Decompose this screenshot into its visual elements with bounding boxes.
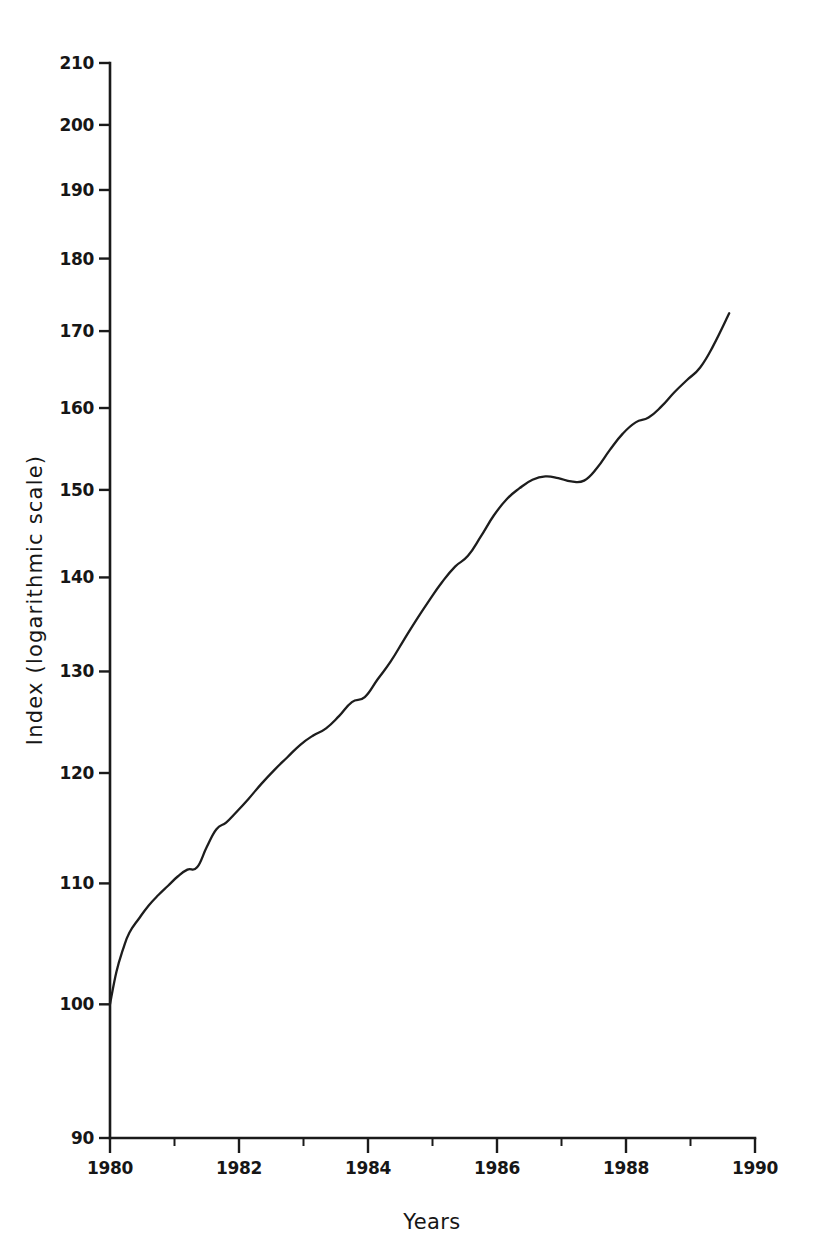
- y-tick-label: 130: [59, 661, 94, 681]
- x-tick-label: 1982: [216, 1158, 262, 1178]
- y-tick-label: 110: [59, 873, 94, 893]
- axis-lines: [110, 63, 755, 1138]
- data-line-index: [110, 313, 729, 1004]
- y-axis-title: Index (logarithmic scale): [23, 455, 47, 745]
- y-tick-label: 140: [59, 567, 94, 587]
- y-tick-label: 120: [59, 763, 94, 783]
- x-tick-label: 1990: [732, 1158, 779, 1178]
- x-tick-label: 1984: [345, 1158, 392, 1178]
- y-tick-label: 150: [59, 480, 94, 500]
- x-tick-label: 1980: [87, 1158, 134, 1178]
- y-tick-label: 210: [59, 53, 94, 73]
- y-tick-label: 170: [59, 321, 94, 341]
- y-tick-label: 160: [59, 398, 94, 418]
- y-tick-label: 190: [59, 180, 94, 200]
- x-tick-label: 1986: [474, 1158, 520, 1178]
- y-axis-ticks: 21020019018017016015014013012011010090: [59, 53, 110, 1148]
- x-axis-ticks: 198019821984198619881990: [87, 1138, 779, 1178]
- x-axis-title: Years: [402, 1210, 460, 1234]
- y-tick-label: 100: [59, 994, 94, 1014]
- y-tick-label: 180: [59, 249, 94, 269]
- line-chart: 21020019018017016015014013012011010090 1…: [0, 0, 813, 1258]
- y-tick-label: 90: [71, 1128, 95, 1148]
- x-tick-label: 1988: [603, 1158, 649, 1178]
- series-group: [110, 313, 729, 1004]
- chart-figure: 21020019018017016015014013012011010090 1…: [0, 0, 813, 1258]
- y-tick-label: 200: [59, 115, 94, 135]
